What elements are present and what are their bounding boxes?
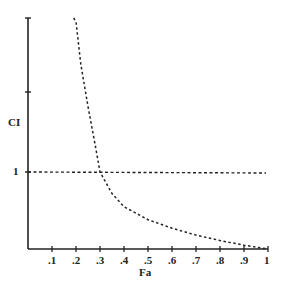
x-tick-label: 1 — [264, 254, 270, 266]
chart-plot-area — [0, 0, 281, 290]
x-tick-label: .4 — [120, 254, 128, 266]
x-tick-label: .9 — [240, 254, 248, 266]
x-tick-label: .7 — [192, 254, 200, 266]
reference-line-ci-1 — [28, 172, 266, 173]
y-axis-label: CI — [8, 116, 20, 128]
x-tick-label: .6 — [168, 254, 176, 266]
x-tick-label: .3 — [96, 254, 104, 266]
ci-curve — [74, 18, 268, 249]
x-tick-label: .1 — [48, 254, 56, 266]
y-tick-label-1: 1 — [13, 165, 19, 177]
x-tick-label: .8 — [216, 254, 224, 266]
x-tick-label: .5 — [144, 254, 152, 266]
x-axis-label: Fa — [139, 266, 151, 278]
x-tick-label: .2 — [72, 254, 80, 266]
